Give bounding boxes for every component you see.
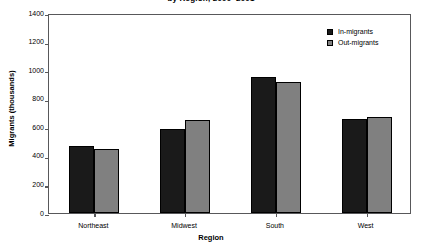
bar-group <box>69 15 119 213</box>
legend-swatch <box>327 29 333 35</box>
bar-group <box>160 15 210 213</box>
bar <box>69 146 94 213</box>
x-axis-label: Region <box>0 233 422 242</box>
legend-label: In-migrants <box>338 26 373 37</box>
x-tick-label: Northeast <box>48 222 138 229</box>
bar-group <box>251 15 301 213</box>
y-tick-label: 1200 <box>0 38 44 45</box>
bar <box>342 119 367 213</box>
x-tick-mark <box>276 213 277 217</box>
y-tick-label: 1400 <box>0 10 44 17</box>
chart-legend: In-migrantsOut-migrants <box>327 26 378 48</box>
bar <box>94 149 119 213</box>
y-tick-label: 1000 <box>0 67 44 74</box>
x-tick-label: South <box>230 222 320 229</box>
y-tick-label: 0 <box>0 210 44 217</box>
y-tick-label: 800 <box>0 95 44 102</box>
legend-item: In-migrants <box>327 26 378 37</box>
x-tick-label: Midwest <box>139 222 229 229</box>
x-tick-mark <box>185 213 186 217</box>
legend-item: Out-migrants <box>327 37 378 48</box>
bar <box>160 129 185 213</box>
bar <box>251 77 276 213</box>
legend-label: Out-migrants <box>338 37 378 48</box>
y-tick-label: 400 <box>0 152 44 159</box>
bar-chart: by Region, 2000–2001 Migrants (thousands… <box>0 0 422 242</box>
y-tick-label: 600 <box>0 124 44 131</box>
x-tick-label: West <box>321 222 411 229</box>
x-tick-mark <box>94 213 95 217</box>
bar <box>276 82 301 213</box>
chart-title: by Region, 2000–2001 <box>0 0 422 3</box>
legend-swatch <box>327 40 333 46</box>
bar <box>185 120 210 213</box>
y-tick-label: 200 <box>0 181 44 188</box>
x-tick-mark <box>367 213 368 217</box>
y-tick-mark <box>45 215 49 216</box>
bar <box>367 117 392 213</box>
